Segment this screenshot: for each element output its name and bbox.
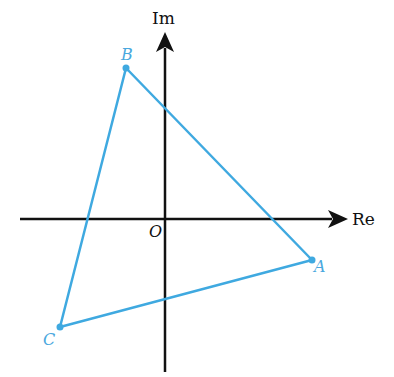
real-axis-label: Re (352, 209, 375, 229)
vertex-c-dot (57, 324, 64, 331)
vertex-c-label: C (43, 330, 55, 349)
triangle-abc (60, 68, 312, 327)
imaginary-axis-label: Im (152, 8, 175, 28)
vertex-a-label: A (312, 257, 326, 276)
complex-plane-diagram: Im Re O A B C (0, 0, 394, 377)
vertex-b-label: B (120, 45, 133, 64)
diagram-svg: Im Re O A B C (0, 0, 394, 377)
origin-label: O (149, 222, 162, 241)
vertex-b-dot (123, 65, 130, 72)
